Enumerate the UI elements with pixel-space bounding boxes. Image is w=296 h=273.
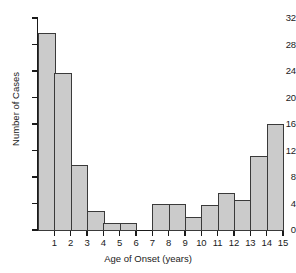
y-tick-mark — [32, 176, 37, 177]
histogram-bar — [87, 211, 105, 230]
histogram-figure: 048121620242832 123456789101112131415 Ag… — [0, 0, 296, 273]
y-tick-mark — [32, 123, 37, 124]
x-tick-mark — [266, 231, 267, 236]
histogram-bar — [152, 204, 170, 231]
histogram-bar — [103, 223, 121, 230]
x-tick-mark — [152, 231, 153, 236]
y-tick-mark — [32, 229, 37, 230]
histogram-bar — [218, 193, 236, 231]
y-tick-mark — [32, 17, 37, 18]
x-tick-mark — [135, 231, 136, 236]
x-tick-mark — [54, 231, 55, 236]
x-axis-title: Age of Onset (years) — [0, 254, 296, 264]
x-tick-mark — [282, 231, 283, 236]
y-tick-mark — [32, 97, 37, 98]
histogram-bar — [71, 165, 89, 231]
x-tick-mark — [250, 231, 251, 236]
y-tick-mark — [32, 44, 37, 45]
histogram-bar — [234, 200, 252, 230]
x-tick-mark — [86, 231, 87, 236]
histogram-bar — [120, 223, 138, 230]
y-tick-mark — [32, 150, 37, 151]
histogram-bar — [38, 33, 56, 231]
y-tick-mark — [32, 203, 37, 204]
x-tick-mark — [103, 231, 104, 236]
histogram-bar — [267, 124, 285, 231]
histogram-bar — [185, 217, 203, 231]
x-tick-mark — [184, 231, 185, 236]
x-tick-mark — [217, 231, 218, 236]
x-tick-mark — [119, 231, 120, 236]
histogram-bar — [54, 73, 72, 231]
y-tick-mark — [32, 70, 37, 71]
x-tick-mark — [233, 231, 234, 236]
y-axis-title: Number of Cases — [11, 49, 21, 169]
histogram-bar — [169, 204, 187, 231]
x-tick-label: 15 — [272, 238, 294, 248]
x-tick-mark — [201, 231, 202, 236]
histogram-bar — [201, 205, 219, 231]
x-tick-mark — [168, 231, 169, 236]
x-tick-mark — [70, 231, 71, 236]
histogram-bar — [250, 156, 268, 231]
